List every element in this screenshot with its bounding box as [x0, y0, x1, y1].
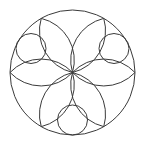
small-circle-bottom: [58, 105, 88, 135]
rosette-diagram: geometric-rosette: [0, 0, 146, 145]
small-circle-upper-right: [99, 34, 129, 64]
rosette-svg: [0, 0, 146, 145]
petal-120: [39, 18, 74, 72]
petal-180: [10, 59, 73, 86]
petal-0: [73, 59, 136, 86]
petal-60: [71, 18, 106, 72]
small-circle-upper-left: [16, 34, 46, 64]
petal-240: [39, 73, 74, 127]
petal-group: [10, 18, 135, 126]
petal-300: [71, 73, 106, 127]
